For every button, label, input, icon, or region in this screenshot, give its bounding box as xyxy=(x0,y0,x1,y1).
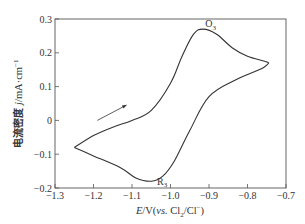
y-tick-label: 0 xyxy=(47,115,52,126)
cv-curve xyxy=(74,29,268,181)
x-axis-title: E/V(vs. Cl2/Cl−) xyxy=(135,204,205,219)
x-tick-label: −1.2 xyxy=(84,190,102,201)
x-tick-label: −0.7 xyxy=(277,190,295,201)
x-tick-label: −1.1 xyxy=(123,190,141,201)
x-axis-ticks: −1.3−1.2−1.1−1.0−0.9−0.8−0.7 xyxy=(46,184,295,201)
y-axis-title: 电流密度 j/mA·cm−1 xyxy=(12,59,24,148)
plot-frame xyxy=(55,19,286,188)
y-tick-label: 0.3 xyxy=(40,14,53,25)
y-tick-label: −0.1 xyxy=(34,149,52,160)
y-tick-label: −0.2 xyxy=(34,183,52,194)
scan-direction-arrow-icon xyxy=(97,105,126,120)
x-tick-label: −0.8 xyxy=(238,190,256,201)
cv-chart: −1.3−1.2−1.1−1.0−0.9−0.8−0.7 −0.2−0.100.… xyxy=(0,0,305,224)
y-tick-label: 0.2 xyxy=(40,47,53,58)
x-tick-label: −0.9 xyxy=(200,190,218,201)
peak-label-r3: R3 xyxy=(157,176,168,190)
x-tick-label: −1.0 xyxy=(161,190,179,201)
y-tick-label: 0.1 xyxy=(40,81,53,92)
